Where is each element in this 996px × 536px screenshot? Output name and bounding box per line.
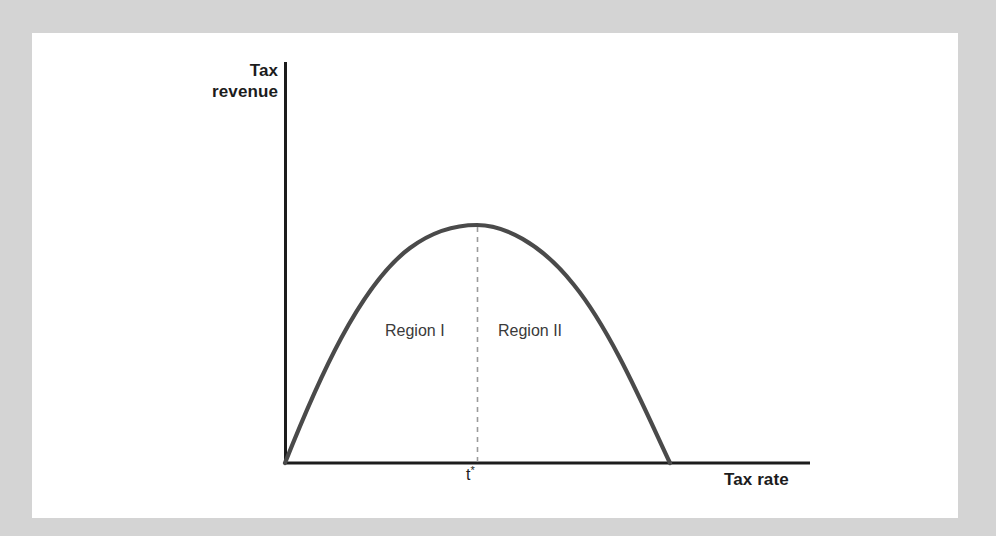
optimum-tax-rate-label: t* (466, 466, 475, 484)
y-axis-label-line2: revenue (212, 82, 278, 101)
region-1-label: Region I (385, 322, 445, 340)
figure-root: Taxrevenue Tax rate Region I Region II t… (0, 0, 996, 536)
y-axis-label-line1: Tax (250, 61, 278, 80)
region-2-label: Region II (498, 322, 562, 340)
optimum-tax-rate-asterisk: * (470, 464, 474, 476)
x-axis-label: Tax rate (724, 470, 789, 490)
y-axis-label: Taxrevenue (148, 60, 278, 102)
